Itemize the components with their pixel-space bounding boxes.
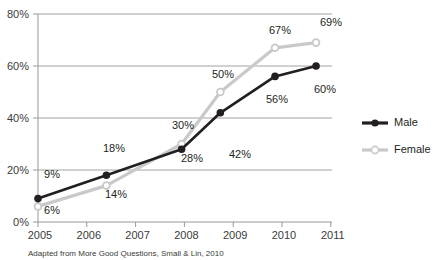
y-axis-label-40: 40% [7,112,29,124]
male-markers [34,62,320,202]
chart-legend: Male Female [362,116,431,155]
male-data-label-2008: 28% [181,152,203,164]
male-data-point [271,73,279,81]
male-data-label-2006: 18% [103,142,125,154]
legend-item-female[interactable]: Female [362,143,431,155]
female-data-label-2008: 30% [172,119,194,131]
x-axis-label-2005: 2005 [28,229,52,241]
x-axis-label-2009: 2009 [223,229,247,241]
male-data-label-2005: 9% [44,168,60,180]
x-axis-label-2008: 2008 [174,229,198,241]
y-axis-label-80: 80% [7,8,29,20]
y-axis-label-60: 60% [7,60,29,72]
chart-container: 80% 60% 40% 20% 0% 2005 2006 2007 2008 2… [0,0,438,260]
male-line [38,66,316,199]
male-data-point [312,62,320,70]
female-data-point [313,39,320,46]
x-axis-ticks [38,222,331,227]
male-data-point [34,195,42,203]
male-data-label-2009: 42% [229,148,251,160]
female-data-label-2011: 69% [320,16,342,28]
x-axis-label-2011: 2011 [321,229,345,241]
female-data-label-2005: 6% [44,204,60,216]
y-axis-label-0: 0% [13,216,29,228]
female-data-label-2006: 14% [105,188,127,200]
chart-caption: Adapted from More Good Questions, Small … [28,249,224,258]
male-data-label-2011: 60% [314,83,336,95]
line-chart: 80% 60% 40% 20% 0% 2005 2006 2007 2008 2… [0,0,438,260]
female-data-point [272,44,279,51]
legend-male-marker-icon [371,119,378,126]
legend-item-male[interactable]: Male [362,116,418,128]
legend-female-marker-icon [371,146,378,153]
y-axis-ticks [33,14,38,222]
male-data-label-2010: 56% [266,93,288,105]
y-axis-labels: 80% 60% 40% 20% 0% [7,8,29,228]
male-data-point [217,109,225,117]
series-male [34,62,320,202]
female-data-label-2009: 50% [212,68,234,80]
x-axis-label-2006: 2006 [77,229,101,241]
y-axis-label-20: 20% [7,164,29,176]
legend-label-male: Male [394,116,418,128]
x-axis-label-2007: 2007 [125,229,149,241]
x-axis-label-2010: 2010 [272,229,296,241]
female-data-point [217,89,224,96]
female-data-label-2010: 67% [269,24,291,36]
male-data-point [103,171,111,179]
x-axis-labels: 2005 2006 2007 2008 2009 2010 2011 [28,229,345,241]
legend-label-female: Female [394,143,431,155]
female-data-point [35,203,42,210]
